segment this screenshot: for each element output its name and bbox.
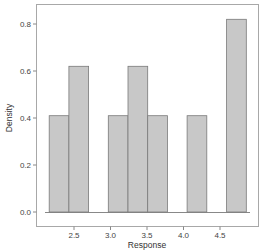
x-axis: 2.53.03.54.04.5	[68, 227, 226, 241]
histogram-bar	[49, 116, 69, 212]
histogram-bar	[148, 116, 168, 212]
x-tick-label: 4.5	[214, 231, 226, 240]
y-tick-label: 0.2	[20, 161, 32, 170]
histogram-bar	[108, 116, 128, 212]
x-tick-label: 2.5	[68, 231, 80, 240]
y-axis: 0.00.20.40.60.8	[20, 20, 37, 217]
x-tick-label: 4.0	[178, 231, 190, 240]
histogram-bar	[69, 66, 89, 212]
y-axis-title: Density	[4, 103, 14, 132]
histogram-bar	[227, 19, 247, 212]
y-tick-label: 0.8	[20, 20, 32, 29]
x-tick-label: 3.0	[105, 231, 117, 240]
y-tick-label: 0.4	[20, 114, 32, 123]
y-tick-label: 0.6	[20, 67, 32, 76]
x-tick-label: 3.5	[141, 231, 153, 240]
histogram-bar	[187, 116, 207, 212]
x-axis-title: Response	[128, 240, 167, 250]
histogram-bars	[49, 19, 246, 212]
histogram-bar	[128, 66, 148, 212]
histogram-chart: 0.00.20.40.60.8 2.53.03.54.04.5 Response…	[0, 0, 263, 252]
y-tick-label: 0.0	[20, 208, 32, 217]
